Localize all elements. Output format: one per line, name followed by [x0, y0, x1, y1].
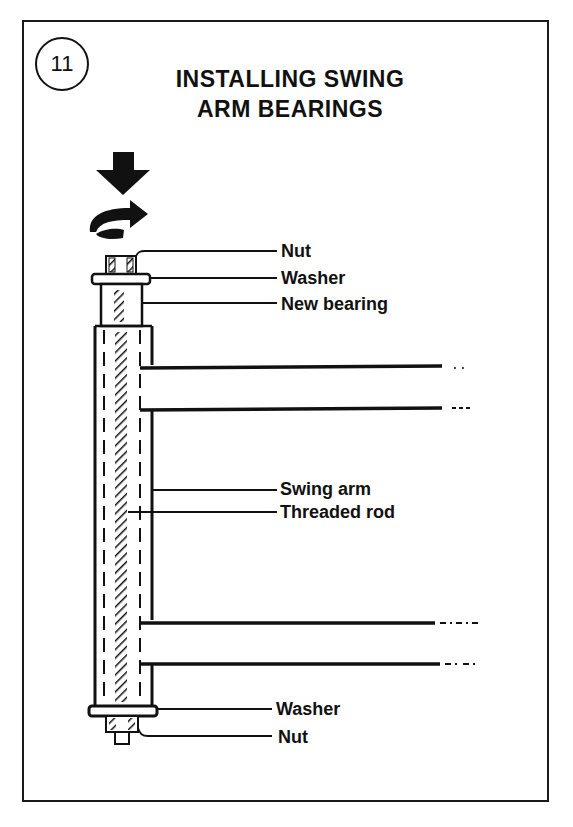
label-swing-arm: Swing arm: [280, 479, 371, 499]
swing-arm-upper: [140, 366, 470, 410]
label-new-bearing: New bearing: [281, 294, 388, 314]
top-washer-shape: [92, 274, 150, 284]
label-top-washer: Washer: [281, 268, 345, 288]
label-bottom-washer: Washer: [276, 699, 340, 719]
rotate-arrow-icon: [90, 200, 148, 239]
label-bottom-nut: Nut: [278, 727, 308, 747]
swing-arm-lower: [140, 623, 480, 664]
label-top-nut: Nut: [281, 241, 311, 261]
bottom-nut-shape: [106, 716, 138, 744]
swing-arm-tube: [95, 326, 152, 706]
bottom-washer-shape: [89, 706, 157, 716]
label-threaded-rod: Threaded rod: [280, 502, 395, 522]
press-down-arrow-icon: [96, 152, 150, 195]
top-nut-shape: [106, 256, 136, 274]
new-bearing-shape: [101, 284, 142, 326]
